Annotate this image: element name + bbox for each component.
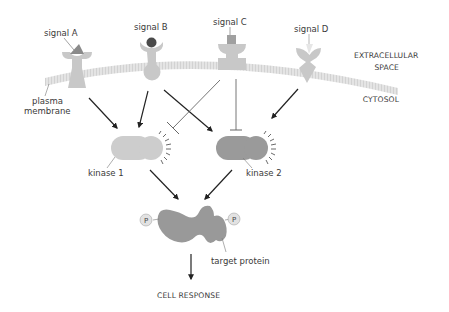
signal-d-label: signal D (294, 24, 329, 34)
kinase-2 (216, 131, 276, 164)
phosphate-left: P (140, 214, 152, 226)
phosphate-right: P (228, 213, 240, 225)
plasma-label: plasma (32, 96, 63, 106)
arrow-b-to-k1 (139, 91, 148, 127)
signal-c-square (227, 35, 236, 44)
svg-text:P: P (232, 216, 236, 224)
arrow-a-to-k1 (89, 98, 117, 128)
arrow-k2-to-target (205, 170, 232, 199)
membrane-label: membrane (24, 106, 71, 116)
svg-text:P: P (144, 217, 148, 225)
extracellular-label-1: EXTRACELLULAR (354, 51, 419, 60)
cytosol-label: CYTOSOL (363, 95, 400, 104)
signal-a-triangle (70, 44, 84, 54)
kinase-1 (111, 131, 171, 164)
target-protein-label: target protein (211, 256, 270, 266)
cell-response-label: CELL RESPONSE (157, 291, 220, 300)
arrow-d-to-k2 (272, 89, 298, 118)
signal-a-label: signal A (44, 28, 78, 38)
target-protein (158, 206, 227, 243)
receptor-a (62, 44, 92, 88)
signal-c-label: signal C (213, 17, 247, 27)
signaling-diagram: signal A signal B signal C signal D EXTR… (0, 0, 449, 312)
receptor-b (140, 38, 163, 81)
extracellular-label-2: SPACE (374, 63, 399, 72)
signal-b-circle (147, 38, 157, 48)
kinase-2-label: kinase 2 (246, 168, 282, 178)
signal-b-label: signal B (134, 22, 168, 32)
kinase-1-label: kinase 1 (88, 168, 124, 178)
arrow-k1-to-target (150, 170, 178, 199)
receptor-c (218, 35, 246, 70)
